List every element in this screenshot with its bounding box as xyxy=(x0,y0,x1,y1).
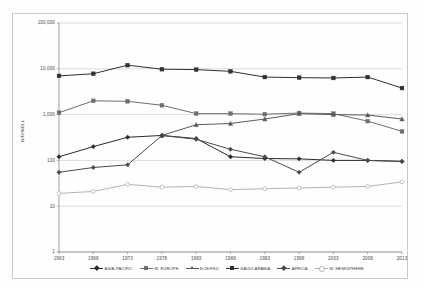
data-point xyxy=(400,159,404,163)
data-point xyxy=(91,190,95,194)
data-point xyxy=(91,72,95,76)
y-tick-label: 1 xyxy=(15,249,55,254)
chart-figure: B/D/WELL 100,00010,0001,000100101 196319… xyxy=(0,0,424,288)
data-point xyxy=(332,76,336,80)
legend-label: W. EUROPE xyxy=(154,266,178,271)
plot-area xyxy=(0,0,424,288)
x-tick-label: 1978 xyxy=(145,256,179,261)
legend-item-saudi-arabia[interactable]: SAUDI ARABIA xyxy=(226,265,271,271)
data-point xyxy=(160,185,164,189)
data-point xyxy=(125,135,129,139)
data-point xyxy=(297,186,301,190)
data-point xyxy=(57,111,61,115)
data-point xyxy=(57,74,61,78)
legend-item-africa[interactable]: AFRICA xyxy=(277,265,307,271)
data-point xyxy=(229,112,233,116)
series-africa xyxy=(57,133,404,174)
legend-marker-icon xyxy=(226,265,239,271)
x-tick-label: 1998 xyxy=(282,256,316,261)
y-tick-label: 100,000 xyxy=(15,20,55,25)
y-tick-label: 100 xyxy=(15,158,55,163)
data-point xyxy=(366,75,370,79)
x-tick-label: 1973 xyxy=(111,256,145,261)
legend-marker-icon xyxy=(186,265,199,271)
y-axis-title: B/D/WELL xyxy=(20,101,25,161)
legend-item-w-hemisphere[interactable]: W. HEMISPHERE xyxy=(315,265,364,271)
data-point xyxy=(194,68,198,72)
data-point xyxy=(366,158,370,162)
series-line xyxy=(59,101,402,132)
data-point xyxy=(400,86,404,90)
data-point xyxy=(91,99,95,103)
data-point xyxy=(297,170,301,174)
data-point xyxy=(57,155,61,159)
data-point xyxy=(229,69,233,73)
legend-marker-icon xyxy=(140,265,153,271)
data-point xyxy=(366,119,370,123)
data-point xyxy=(57,170,61,174)
legend-item-w-europe[interactable]: W. EUROPE xyxy=(140,265,179,271)
data-point xyxy=(263,187,267,191)
legend-marker-icon xyxy=(277,265,290,271)
data-point xyxy=(126,99,130,103)
y-tick-label: 10 xyxy=(15,204,55,209)
data-point xyxy=(91,165,95,169)
x-tick-label: 2008 xyxy=(351,256,385,261)
legend-item-asia-pacific[interactable]: ASIA-PACIFIC xyxy=(90,265,133,271)
data-point xyxy=(332,185,336,189)
x-tick-label: 1993 xyxy=(248,256,282,261)
chart-legend: ASIA-PACIFICW. EUROPEECE/FSUSAUDI ARABIA… xyxy=(62,262,392,274)
data-point xyxy=(126,182,130,186)
data-point xyxy=(263,75,267,79)
data-point xyxy=(228,155,232,159)
legend-marker-icon xyxy=(90,265,103,271)
chart-svg xyxy=(0,0,424,288)
data-point xyxy=(91,144,95,148)
series-w-hemisphere xyxy=(57,180,404,195)
x-tick-label: 2003 xyxy=(316,256,350,261)
data-point xyxy=(228,147,232,151)
legend-label: AFRICA xyxy=(292,266,308,271)
x-tick-label: 1983 xyxy=(179,256,213,261)
series-saudi-arabia xyxy=(57,63,404,90)
legend-label: W. HEMISPHERE xyxy=(329,266,364,271)
data-point xyxy=(160,103,164,107)
y-tick-label: 1,000 xyxy=(15,112,55,117)
legend-marker-icon xyxy=(315,265,328,271)
data-point xyxy=(57,192,61,196)
data-point xyxy=(160,67,164,71)
x-tick-label: 1968 xyxy=(76,256,110,261)
legend-label: SAUDI ARABIA xyxy=(240,266,270,271)
data-point xyxy=(297,76,301,80)
data-point xyxy=(400,180,404,184)
y-tick-label: 10,000 xyxy=(15,66,55,71)
data-point xyxy=(331,150,335,154)
data-point xyxy=(366,185,370,189)
data-point xyxy=(331,158,335,162)
legend-label: ASIA-PACIFIC xyxy=(105,266,133,271)
legend-label: ECE/FSU xyxy=(200,266,219,271)
data-point xyxy=(263,112,267,116)
legend-item-ece-fsu[interactable]: ECE/FSU xyxy=(186,265,219,271)
data-point xyxy=(400,129,404,133)
x-tick-label: 1963 xyxy=(42,256,76,261)
data-point xyxy=(229,188,233,192)
data-point xyxy=(126,63,130,67)
data-point xyxy=(194,185,198,189)
x-tick-label: 1988 xyxy=(214,256,248,261)
series-w-europe xyxy=(57,99,404,133)
series-line xyxy=(59,135,402,172)
x-tick-label: 2013 xyxy=(385,256,419,261)
data-point xyxy=(194,112,198,116)
